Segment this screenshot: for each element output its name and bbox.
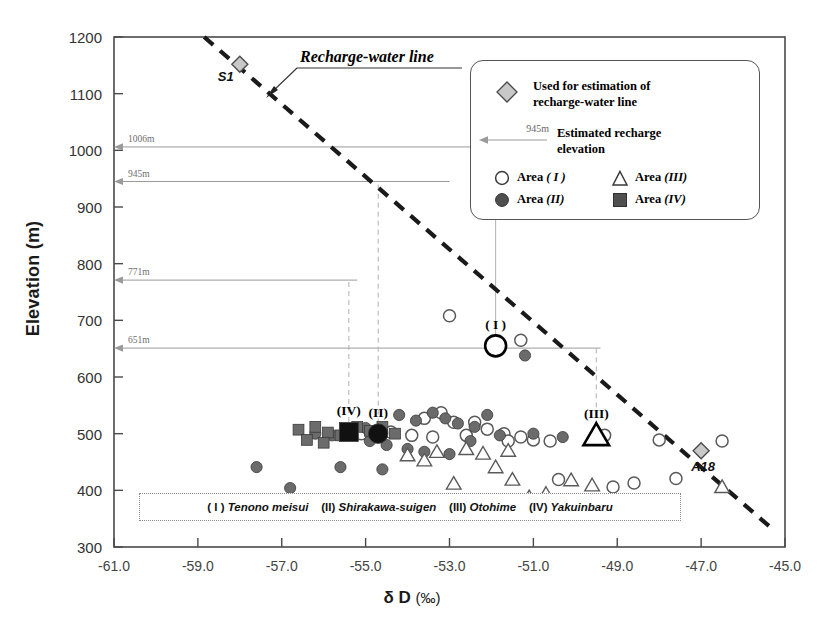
recharge-elevation-scatter-figure: 300400500600700800900100011001200-61.0-5… [0,0,824,644]
y-tick-label: 800 [77,256,102,273]
legend-area-4-roman: (IV) [664,192,686,206]
legend-arrow-value: 945m [477,123,549,134]
legend-box: Used for estimation of recharge-water li… [470,60,760,220]
x-tick-label: -51.0 [517,558,549,574]
elevation-arrow-label: 945m [128,169,150,179]
x-axis-title: δ D (‰) [0,588,824,608]
footnote-name-4: Yakuinbaru [551,501,613,513]
estimated-recharge-arrow-icon [477,134,549,146]
y-tick-label: 600 [77,369,102,386]
legend-area-3-roman: (III) [664,170,687,184]
legend-entry-area-4: Area (IV) [611,191,686,209]
legend-entry-arrow: 945m Estimated recharge elevation [477,123,749,157]
group-marker [339,423,358,442]
x-tick-label: -61.0 [98,558,130,574]
footnote-roman-2: (II) [321,501,335,513]
legend-area-4-label: Area [635,192,661,206]
legend-diamond-icon [487,77,527,107]
footnote-name-2: Shirakawa-suigen [339,501,437,513]
elevation-arrow: 1006m [114,134,508,151]
legend-arrow-label-1: Estimated recharge [557,126,661,140]
x-tick-label: -49.0 [601,558,633,574]
elevation-arrow-label: 651m [128,335,150,345]
filled-square-icon [611,191,631,209]
open-circle-icon [493,169,513,187]
x-tick-label: -57.0 [266,558,298,574]
y-tick-label: 1000 [69,142,102,159]
elevation-arrow: 945m [114,169,450,186]
open-triangle-icon [611,169,631,187]
elevation-arrow-label: 771m [128,267,150,277]
x-axis-title-unit: (‰) [416,589,441,606]
legend-entry-diamond: Used for estimation of recharge-water li… [487,77,745,110]
footnote-roman-1: ( I ) [207,501,224,513]
footnote-name-3: Otohime [470,501,517,513]
named-point-label: S1 [218,69,234,84]
elevation-arrow-label: 1006m [128,134,155,144]
legend-diamond-label-1: Used for estimation of [533,79,650,93]
footnote-name-1: Tenono meisui [228,501,309,513]
scatter-series [355,310,728,509]
scatter-series [251,350,568,494]
group-marker-label: (II) [368,405,388,420]
x-tick-label: -45.0 [769,558,801,574]
legend-area-2-label: Area [517,192,543,206]
footnote-text: ( I ) Tenono meisui (II) Shirakawa-suige… [207,501,612,513]
y-tick-label: 500 [77,426,102,443]
y-tick-label: 700 [77,312,102,329]
x-tick-label: -55.0 [350,558,382,574]
group-marker-label: (IV) [337,403,361,418]
legend-area-3-label: Area [635,170,661,184]
footnote-roman-4: (IV) [529,501,548,513]
named-point-label: A18 [690,459,716,474]
y-tick-label: 400 [77,482,102,499]
y-tick-label: 1100 [70,86,102,103]
legend-entry-area-3: Area (III) [611,169,687,187]
footnote-box: ( I ) Tenono meisui (II) Shirakawa-suige… [139,493,681,521]
y-tick-label: 300 [77,539,102,556]
legend-entry-area-2: Area (II) [493,191,564,209]
legend-area-2-roman: (II) [546,192,564,206]
elevation-arrow: 651m [114,335,600,352]
legend-diamond-label-2: recharge-water line [533,95,637,109]
legend-arrow-label-2: elevation [557,142,605,156]
legend-area-1-label: Area [517,170,543,184]
x-tick-label: -59.0 [182,558,214,574]
recharge-water-line-label: Recharge-water line [299,48,434,66]
group-marker-label: (III) [584,406,609,421]
legend-area-1-roman: ( I ) [546,170,565,184]
y-tick-label: 900 [77,199,102,216]
x-tick-label: -47.0 [685,558,717,574]
group-marker [485,335,506,356]
footnote-roman-3: (III) [449,501,466,513]
y-tick-label: 1200 [69,29,102,46]
x-tick-label: -53.0 [434,558,466,574]
legend-entry-area-1: Area ( I ) [493,169,566,187]
y-axis-title: Elevation (m) [23,194,44,364]
group-marker [368,424,388,444]
x-axis-title-symbol: δ D [383,588,410,607]
filled-circle-icon [493,191,513,209]
group-marker-label: ( I ) [485,317,506,332]
elevation-arrow: 771m [114,267,357,284]
